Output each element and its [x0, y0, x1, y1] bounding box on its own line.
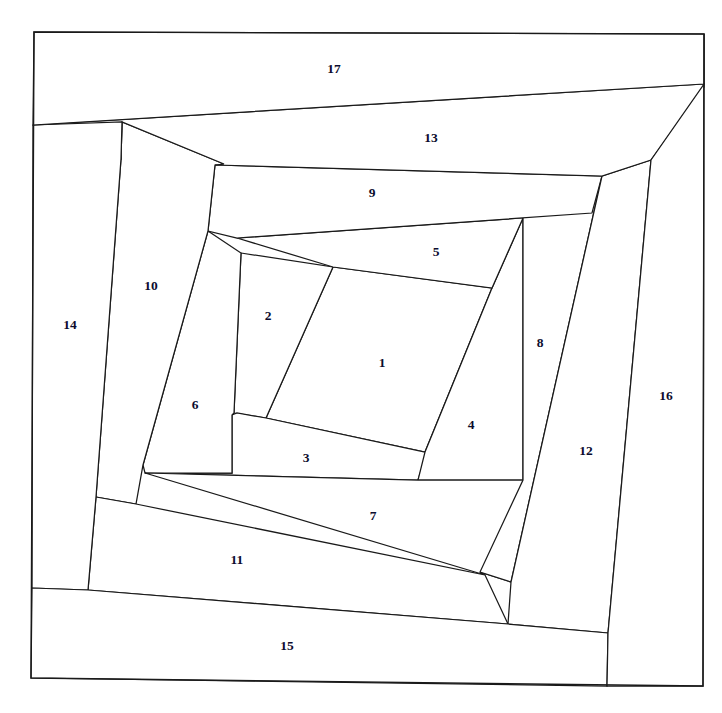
- region-label-7: 7: [370, 508, 377, 523]
- polygon-partition-diagram: 1234567891011121314151617: [0, 0, 722, 713]
- diagram-canvas: 1234567891011121314151617: [0, 0, 722, 713]
- region-label-15: 15: [280, 638, 294, 653]
- region-label-9: 9: [369, 185, 376, 200]
- region-label-16: 16: [659, 388, 673, 403]
- region-label-4: 4: [468, 417, 475, 432]
- region-label-13: 13: [424, 130, 438, 145]
- region-label-5: 5: [433, 244, 440, 259]
- region-label-10: 10: [144, 278, 158, 293]
- region-label-3: 3: [303, 450, 310, 465]
- region-label-11: 11: [231, 552, 244, 567]
- region-label-14: 14: [63, 317, 77, 332]
- region-label-2: 2: [265, 308, 272, 323]
- region-label-17: 17: [327, 61, 341, 76]
- region-label-1: 1: [379, 355, 386, 370]
- region-label-6: 6: [192, 397, 199, 412]
- regions-layer: [31, 32, 704, 686]
- region-label-12: 12: [579, 443, 593, 458]
- region-label-8: 8: [537, 335, 544, 350]
